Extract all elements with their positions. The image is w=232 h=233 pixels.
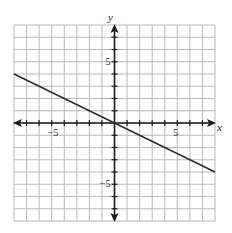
x-tick-label: 5 [173, 127, 178, 138]
y-tick-label: 5 [106, 56, 111, 67]
y-axis-label: y [107, 11, 113, 23]
y-tick-label: −5 [100, 178, 111, 189]
x-tick-label: −5 [48, 127, 59, 138]
coordinate-plane: y x −555−5 [0, 0, 232, 233]
x-axis-label: x [216, 121, 222, 133]
